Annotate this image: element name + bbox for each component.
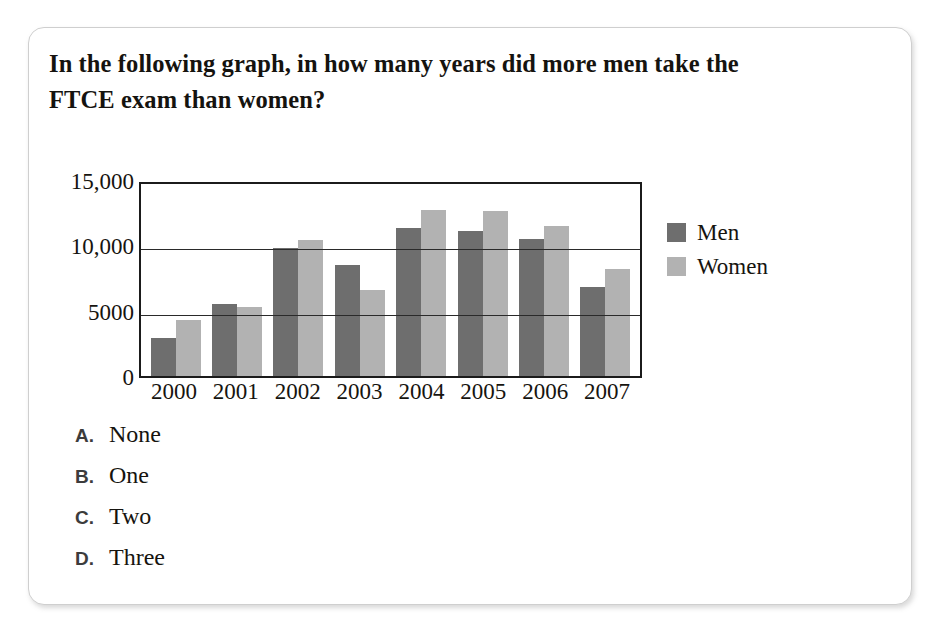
- y-tick-0: 0: [123, 366, 135, 389]
- bar-women-2001: [237, 307, 262, 376]
- bar-women-2006: [544, 226, 569, 376]
- bar-group-2001: [212, 184, 262, 376]
- legend-label-women: Women: [697, 255, 768, 278]
- bar-women-2002: [298, 240, 323, 376]
- x-tick-2001: 2001: [208, 379, 264, 405]
- bar-women-2007: [605, 269, 630, 376]
- x-tick-2005: 2005: [455, 379, 511, 405]
- gridline-5000: [141, 315, 640, 316]
- bar-men-2003: [335, 265, 360, 376]
- y-tick-15000: 15,000: [71, 170, 134, 193]
- chart-plot-area: [139, 182, 642, 378]
- bar-group-2000: [151, 184, 201, 376]
- bar-women-2004: [421, 210, 446, 376]
- x-tick-2007: 2007: [579, 379, 635, 405]
- legend-swatch-icon-women: [667, 257, 686, 276]
- gridline-10000: [141, 249, 640, 250]
- x-tick-2002: 2002: [270, 379, 326, 405]
- bar-men-2004: [396, 228, 421, 376]
- answer-choice-text: Three: [109, 544, 165, 571]
- answer-choice-letter: A.: [75, 425, 109, 447]
- bar-women-2003: [360, 290, 385, 376]
- answer-choice-letter: B.: [75, 466, 109, 488]
- legend-swatch-icon-men: [667, 223, 686, 242]
- bar-group-2002: [273, 184, 323, 376]
- y-axis-tick-labels: 0500010,00015,000: [39, 146, 134, 376]
- bar-men-2006: [519, 239, 544, 376]
- answer-choice-letter: D.: [75, 548, 109, 570]
- y-tick-5000: 5000: [88, 301, 134, 324]
- y-tick-10000: 10,000: [71, 235, 134, 258]
- bar-series-container: [141, 184, 640, 376]
- answer-choice-c[interactable]: C.Two: [75, 503, 575, 544]
- question-stem: In the following graph, in how many year…: [49, 46, 749, 118]
- bar-women-2000: [176, 320, 201, 376]
- x-axis-tick-labels: 20002001200220032004200520062007: [139, 379, 642, 405]
- bar-group-2003: [335, 184, 385, 376]
- bar-men-2000: [151, 338, 176, 376]
- answer-choice-b[interactable]: B.One: [75, 462, 575, 503]
- bar-group-2005: [458, 184, 508, 376]
- x-tick-2006: 2006: [517, 379, 573, 405]
- answer-choice-text: Two: [109, 503, 151, 530]
- x-tick-2003: 2003: [332, 379, 388, 405]
- bar-men-2002: [273, 248, 298, 376]
- bar-chart: 0500010,00015,000 2000200120022003200420…: [29, 146, 913, 406]
- answer-choice-text: One: [109, 462, 149, 489]
- bar-women-2005: [483, 211, 508, 376]
- bar-men-2005: [458, 231, 483, 376]
- legend-label-men: Men: [697, 221, 739, 244]
- answer-choice-letter: C.: [75, 507, 109, 529]
- x-tick-2004: 2004: [393, 379, 449, 405]
- answer-choice-text: None: [109, 421, 161, 448]
- answer-choice-d[interactable]: D.Three: [75, 544, 575, 585]
- answer-choice-a[interactable]: A.None: [75, 421, 575, 462]
- bar-men-2007: [580, 287, 605, 376]
- page-root: In the following graph, in how many year…: [0, 0, 926, 630]
- chart-legend: MenWomen: [667, 221, 867, 289]
- bar-group-2007: [580, 184, 630, 376]
- bar-group-2004: [396, 184, 446, 376]
- question-card: In the following graph, in how many year…: [28, 27, 912, 605]
- legend-item-men: Men: [667, 221, 867, 244]
- answer-choice-list: A.NoneB.OneC.TwoD.Three: [75, 421, 575, 585]
- x-tick-2000: 2000: [146, 379, 202, 405]
- legend-item-women: Women: [667, 255, 867, 278]
- bar-group-2006: [519, 184, 569, 376]
